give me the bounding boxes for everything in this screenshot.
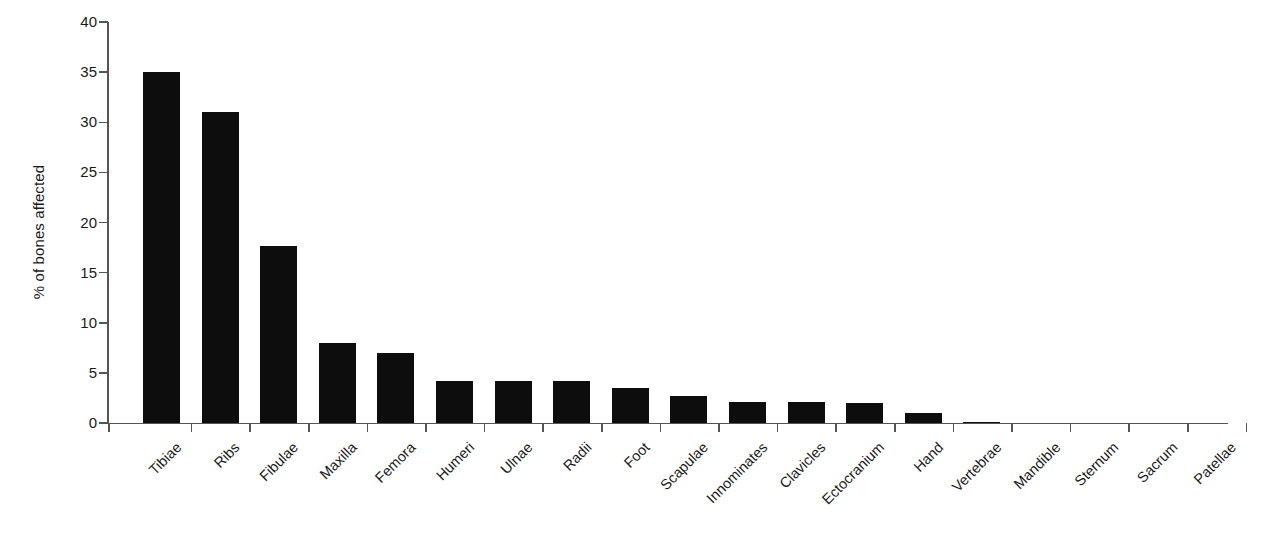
x-tick-label: Ulnae [497, 437, 538, 478]
bar [788, 402, 825, 423]
x-tick-mark [484, 423, 486, 432]
bar [377, 353, 414, 423]
x-tick-mark [367, 423, 369, 432]
y-tick-mark [99, 21, 108, 23]
x-tick-label: Sternum [1071, 437, 1124, 490]
x-tick-mark [108, 423, 110, 432]
x-tick-label: Vertebrae [948, 437, 1007, 496]
y-tick-label: 40 [63, 14, 97, 29]
x-tick-mark [894, 423, 896, 432]
y-tick-mark [99, 222, 108, 224]
y-tick-mark [99, 71, 108, 73]
x-tick-label: Innominates [702, 437, 772, 507]
y-tick-label: 25 [63, 164, 97, 179]
y-tick-label: 0 [63, 415, 97, 430]
y-tick-label: 35 [63, 64, 97, 79]
y-axis-title: % of bones affected [26, 22, 52, 442]
y-tick-mark [99, 272, 108, 274]
x-tick-label: Foot [620, 437, 655, 472]
x-tick-mark [308, 423, 310, 432]
x-tick-mark [542, 423, 544, 432]
x-tick-mark [601, 423, 603, 432]
x-tick-mark [1128, 423, 1130, 432]
x-tick-mark [660, 423, 662, 432]
bar [670, 396, 707, 423]
x-tick-mark [835, 423, 837, 432]
x-tick-mark [1070, 423, 1072, 432]
y-tick-label: 30 [63, 114, 97, 129]
x-tick-mark [1187, 423, 1189, 432]
x-tick-label: Humeri [432, 437, 479, 484]
y-tick-mark [99, 122, 108, 124]
bar [905, 413, 942, 423]
bar [319, 343, 356, 423]
x-tick-label: Radii [559, 437, 597, 475]
x-tick-label: Fibulae [256, 437, 304, 485]
bar [202, 112, 239, 423]
x-tick-label: Maxilla [316, 437, 362, 483]
x-tick-mark [1011, 423, 1013, 432]
bar [963, 422, 1000, 424]
bar [612, 388, 649, 423]
x-tick-label: Patellae [1190, 437, 1241, 488]
y-tick-label: 15 [63, 265, 97, 280]
x-tick-label: Ribs [210, 437, 245, 472]
bar [143, 72, 180, 423]
x-tick-mark [425, 423, 427, 432]
x-tick-mark [718, 423, 720, 432]
y-tick-label: 5 [63, 365, 97, 380]
y-tick-mark [99, 422, 108, 424]
x-tick-label: Clavicles [776, 437, 831, 492]
x-tick-label: Scapulae [657, 437, 714, 494]
bar [495, 381, 532, 423]
x-tick-label: Hand [909, 437, 948, 476]
bar-chart: % of bones affected 0510152025303540 Tib… [0, 0, 1267, 551]
bar [260, 246, 297, 423]
y-tick-label: 10 [63, 315, 97, 330]
bar [846, 403, 883, 423]
x-tick-label: Sacrum [1133, 437, 1182, 486]
y-tick-mark [99, 322, 108, 324]
x-tick-label: Tibiae [145, 437, 187, 479]
x-tick-mark [777, 423, 779, 432]
x-tick-label: Mandible [1009, 437, 1065, 493]
y-tick-mark [99, 172, 108, 174]
x-tick-mark [953, 423, 955, 432]
bar [436, 381, 473, 423]
x-tick-mark [1246, 423, 1248, 432]
bar [553, 381, 590, 423]
plot-area [108, 22, 1228, 423]
y-tick-mark [99, 372, 108, 374]
x-tick-mark [249, 423, 251, 432]
x-tick-mark [191, 423, 193, 432]
y-tick-label: 20 [63, 215, 97, 230]
bar [729, 402, 766, 423]
x-tick-label: Femora [371, 437, 420, 486]
